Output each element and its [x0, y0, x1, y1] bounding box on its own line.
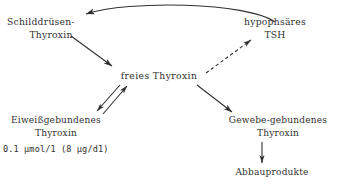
node-pituitary-tsh-line-1: hypophsäres [225, 15, 325, 28]
protein-bound-concentration-label: 0.1 µmol/1 (8 µg/d1) [3, 144, 108, 154]
node-protein-bound-thyroxine-line-2: Thyroxin [2, 127, 110, 140]
edge-free-to-tsh [206, 40, 251, 73]
node-protein-bound-thyroxine: Eiweißgebundenes Thyroxin [2, 114, 110, 140]
node-tissue-bound-thyroxine-line-2: Thyroxin [222, 127, 334, 140]
node-pituitary-tsh-line-2: TSH [225, 28, 325, 41]
node-tissue-bound-thyroxine: Gewebe-gebundenes Thyroxin [222, 114, 334, 140]
node-free-thyroxine-line-1: freies Thyroxin [109, 69, 209, 82]
node-degradation-products: Abbauprodukte [218, 166, 326, 179]
node-tissue-bound-thyroxine-line-1: Gewebe-gebundenes [222, 114, 334, 127]
node-thyroid-thyroxine-line-2: Thyroxin [6, 28, 102, 41]
node-degradation-products-line-1: Abbauprodukte [218, 166, 326, 179]
node-thyroid-thyroxine: Schilddrüsen- Thyroxin [6, 15, 102, 42]
node-pituitary-tsh: hypophsäres TSH [225, 15, 325, 42]
node-thyroid-thyroxine-line-1: Schilddrüsen- [6, 15, 102, 28]
node-protein-bound-thyroxine-line-1: Eiweißgebundenes [2, 114, 110, 127]
thyroxine-metabolism-diagram: Schilddrüsen- Thyroxin hypophsäres TSH f… [0, 0, 340, 189]
node-free-thyroxine: freies Thyroxin [109, 69, 209, 82]
edge-free-to-tissue-bound [197, 85, 232, 112]
